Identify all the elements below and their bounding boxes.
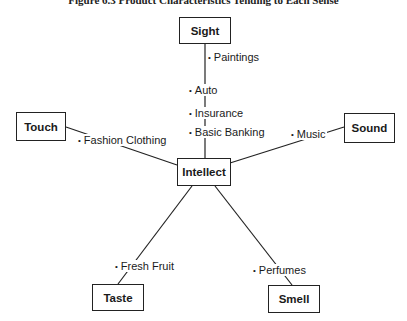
bullet-icon: •: [291, 130, 294, 139]
sense-label: Sight: [191, 25, 220, 37]
sense-box-taste: Taste: [92, 284, 144, 311]
center-box-intellect: Intellect: [177, 158, 231, 186]
item-perfumes: •Perfumes: [252, 264, 307, 276]
bullet-icon: •: [78, 136, 81, 145]
item-fashion-clothing: •Fashion Clothing: [77, 134, 167, 146]
sense-label: Touch: [24, 121, 58, 133]
item-music: •Music: [290, 128, 327, 140]
sense-box-smell: Smell: [268, 285, 320, 313]
sense-label: Smell: [279, 293, 310, 305]
bullet-icon: •: [253, 266, 256, 275]
item-auto: •Auto: [188, 84, 218, 96]
sense-label: Sound: [352, 122, 388, 134]
item-insurance: •Insurance: [188, 107, 244, 119]
center-label: Intellect: [182, 166, 225, 178]
sense-box-sight: Sight: [179, 17, 231, 44]
item-basic-banking: •Basic Banking: [188, 126, 266, 138]
bullet-icon: •: [189, 86, 192, 95]
bullet-icon: •: [189, 128, 192, 137]
bullet-icon: •: [189, 109, 192, 118]
sense-label: Taste: [103, 292, 132, 304]
sense-box-sound: Sound: [344, 113, 395, 143]
sense-box-touch: Touch: [16, 112, 66, 141]
bullet-icon: •: [208, 53, 211, 62]
item-fresh-fruit: •Fresh Fruit: [114, 260, 175, 272]
item-paintings: •Paintings: [207, 51, 260, 63]
bullet-icon: •: [115, 262, 118, 271]
